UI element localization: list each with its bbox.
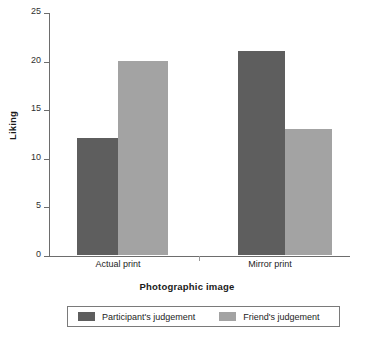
- legend-swatch-participant-icon: [78, 312, 95, 321]
- y-tick-label-5: 5: [36, 200, 41, 210]
- legend-entry-participant: Participant's judgement: [78, 312, 195, 322]
- bar-mirror-print-participant: [238, 51, 285, 255]
- y-tick-label-0: 0: [36, 249, 41, 259]
- y-tick-label-10: 10: [31, 152, 41, 162]
- y-tick-label-15: 15: [31, 103, 41, 113]
- bar-actual-print-participant: [77, 138, 118, 255]
- bar-mirror-print-friend: [285, 129, 332, 255]
- x-category-label-mirror-print: Mirror print: [200, 259, 340, 269]
- bar-actual-print-friend: [118, 61, 168, 255]
- chart-legend: Participant's judgement Friend's judgeme…: [67, 306, 340, 327]
- x-category-label-actual-print: Actual print: [48, 259, 188, 269]
- bar-chart: Liking 0 5 10 15 20 25: [0, 0, 374, 339]
- legend-entry-friend: Friend's judgement: [219, 312, 319, 322]
- legend-label-friend: Friend's judgement: [243, 312, 319, 322]
- x-axis-title: Photographic image: [0, 281, 374, 292]
- y-tick-label-25: 25: [31, 6, 41, 16]
- y-axis-title: Liking: [7, 106, 18, 146]
- legend-label-participant: Participant's judgement: [102, 312, 195, 322]
- y-tick-label-20: 20: [31, 55, 41, 65]
- legend-swatch-friend-icon: [219, 312, 236, 321]
- plot-area: 0 5 10 15 20 25: [49, 13, 350, 256]
- y-axis-line: [49, 13, 50, 257]
